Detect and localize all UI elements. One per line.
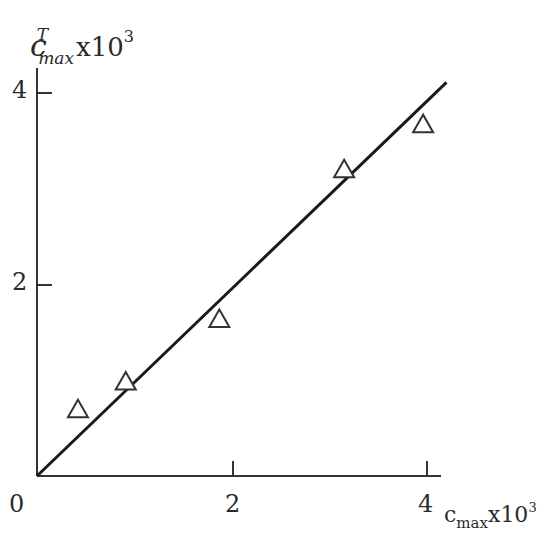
fit-line [37,82,447,476]
y-label-exp: 3 [124,27,134,46]
y-axis-label: cTmaxx103 [30,28,134,63]
data-markers [68,115,433,418]
y-tick-label-2: 2 [12,268,27,296]
triangle-marker-icon [116,372,136,390]
triangle-marker-icon [209,310,229,328]
fit-line-segment [37,82,447,476]
x-label-mult: x10 [488,502,528,527]
x-axis-label: cmaxx103 [414,502,537,527]
x-tick-label-2: 2 [225,490,240,518]
x-label-exp: 3 [528,500,536,515]
y-label-sub: max [38,48,74,68]
x-tick-label-0: 0 [9,490,24,518]
x-label-sub: max [456,514,488,532]
y-tick-label-4: 4 [12,76,27,104]
y-label-sup: T [37,24,48,44]
triangle-marker-icon [68,400,88,418]
triangle-marker-icon [334,160,354,178]
x-label-var: c [444,502,456,527]
y-label-mult: x10 [76,32,124,62]
triangle-marker-icon [413,115,433,133]
plot-area [0,0,556,538]
